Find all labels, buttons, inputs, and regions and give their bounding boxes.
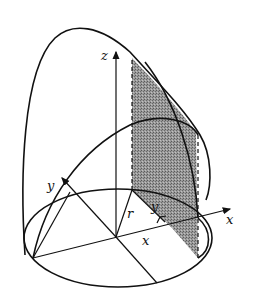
shaded-cross-section xyxy=(132,58,198,258)
y-axis-label: y xyxy=(46,178,55,193)
left-chord xyxy=(33,192,70,258)
y-distance-label: y xyxy=(150,199,159,214)
right-side-curve xyxy=(198,218,209,258)
x-distance-label: x xyxy=(142,233,150,248)
x-axis-label: x xyxy=(226,212,234,227)
z-axis-label: z xyxy=(100,48,108,63)
radius-label: r xyxy=(127,206,134,221)
y-axis-negative xyxy=(116,237,157,283)
y-axis xyxy=(62,178,116,237)
solid-diagram: z y x r x y xyxy=(0,0,257,299)
